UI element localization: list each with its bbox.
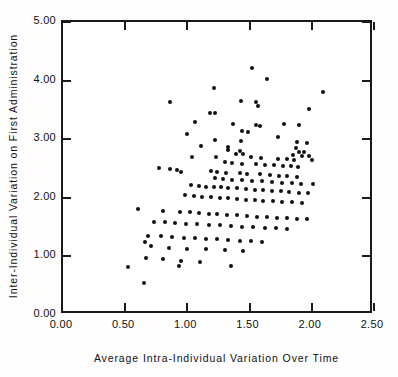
data-point — [167, 246, 171, 250]
plot-frame — [61, 20, 372, 313]
data-point — [188, 210, 192, 214]
data-point — [253, 198, 257, 202]
data-point — [260, 179, 264, 183]
data-point — [297, 123, 301, 127]
data-point — [161, 209, 165, 213]
data-point — [321, 90, 325, 94]
y-tick-mark — [362, 255, 370, 257]
data-point — [289, 164, 293, 168]
data-point — [258, 172, 262, 176]
data-point — [193, 120, 197, 124]
data-point — [255, 215, 259, 219]
data-point — [299, 182, 303, 186]
y-tick-mark — [362, 138, 370, 140]
data-point — [295, 175, 299, 179]
data-point — [287, 190, 291, 194]
data-point — [300, 154, 304, 158]
data-point — [249, 239, 253, 243]
data-point — [230, 178, 234, 182]
data-point — [146, 234, 150, 238]
data-point — [249, 155, 253, 159]
data-point — [204, 185, 208, 189]
data-point — [215, 237, 219, 241]
data-point — [193, 236, 197, 240]
data-point — [168, 167, 172, 171]
data-point — [226, 238, 230, 242]
x-tick-label: 0.50 — [112, 318, 135, 330]
data-point — [235, 197, 239, 201]
data-point — [265, 77, 269, 81]
data-point — [170, 235, 174, 239]
data-point — [192, 194, 196, 198]
data-point — [259, 156, 263, 160]
data-point — [226, 148, 230, 152]
data-point — [213, 176, 217, 180]
data-point — [177, 264, 181, 268]
data-point — [250, 66, 254, 70]
data-point — [223, 248, 227, 252]
data-point — [197, 184, 201, 188]
data-point — [295, 140, 299, 144]
data-point — [285, 216, 289, 220]
data-point — [221, 177, 225, 181]
data-point — [239, 99, 243, 103]
x-tick-label: 2.00 — [298, 318, 321, 330]
data-point — [285, 157, 289, 161]
data-point — [285, 174, 289, 178]
x-tick-mark — [249, 22, 251, 30]
data-point — [215, 212, 219, 216]
data-point — [306, 191, 310, 195]
data-point — [152, 220, 156, 224]
data-point — [261, 199, 265, 203]
data-point — [213, 138, 217, 142]
data-point — [270, 189, 274, 193]
data-point — [214, 155, 218, 159]
data-point — [244, 198, 248, 202]
data-point — [282, 122, 286, 126]
data-point — [272, 163, 276, 167]
data-point — [276, 157, 280, 161]
data-point — [209, 169, 213, 173]
data-point — [163, 220, 167, 224]
data-point — [235, 213, 239, 217]
data-point — [245, 172, 249, 176]
data-point — [161, 257, 165, 261]
data-point — [224, 171, 228, 175]
x-tick-mark — [311, 303, 313, 311]
data-point — [212, 185, 216, 189]
data-point — [168, 100, 172, 104]
y-tick-label: 2.00 — [22, 190, 56, 202]
x-tick-label: 1.50 — [236, 318, 259, 330]
data-point — [253, 188, 257, 192]
data-point — [195, 222, 199, 226]
y-tick-mark — [362, 21, 370, 23]
data-point — [275, 216, 279, 220]
y-tick-mark — [63, 138, 71, 140]
data-point — [240, 178, 244, 182]
data-point — [281, 164, 285, 168]
data-point — [209, 195, 213, 199]
data-point — [292, 158, 296, 162]
data-point — [234, 152, 238, 156]
data-point — [189, 183, 193, 187]
data-point — [246, 130, 250, 134]
data-point — [300, 201, 304, 205]
data-point — [200, 195, 204, 199]
y-tick-mark — [63, 21, 71, 23]
x-tick-mark — [124, 303, 126, 311]
data-point — [218, 223, 222, 227]
data-point — [274, 226, 278, 230]
data-point — [229, 224, 233, 228]
data-point — [157, 166, 161, 170]
x-tick-mark — [186, 303, 188, 311]
data-point — [240, 225, 244, 229]
data-point — [263, 226, 267, 230]
data-point — [297, 191, 301, 195]
data-point — [178, 210, 182, 214]
data-point — [254, 162, 258, 166]
data-point — [290, 200, 294, 204]
y-tick-mark — [63, 80, 71, 82]
y-tick-label: 0.00 — [22, 307, 56, 319]
data-point — [136, 207, 140, 211]
y-tick-mark — [362, 80, 370, 82]
